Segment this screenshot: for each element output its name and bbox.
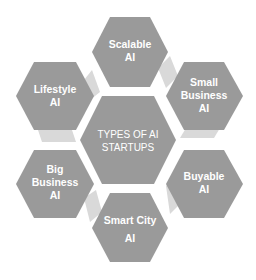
center-title-line-2: STARTUPS xyxy=(102,142,155,153)
hexagon-small-business-label-3: AI xyxy=(199,102,210,114)
hexagon-lifestyle-label-2: AI xyxy=(50,96,61,108)
hexagon-scalable-label-2: AI xyxy=(125,51,136,63)
hexagon-small-business: Small Business AI xyxy=(166,62,243,130)
hexagon-small-business-label-1: Small xyxy=(190,76,218,88)
hexagon-smart-city: Smart City AI xyxy=(92,193,168,262)
hexagon-smart-city-label-1: Smart City xyxy=(104,214,157,226)
hexagon-center: TYPES OF AI STARTUPS xyxy=(80,96,176,184)
types-of-ai-startups-diagram: Scalable AI Small Business AI Buyable AI… xyxy=(0,0,256,280)
hexagon-scalable-label-1: Scalable xyxy=(109,38,152,50)
connector-big-business-lifestyle xyxy=(38,130,76,142)
center-title-line-1: TYPES OF AI xyxy=(97,129,158,140)
hexagon-big-business-label-3: AI xyxy=(50,189,61,201)
hexagon-buyable-label-1: Buyable xyxy=(184,170,225,182)
hexagon-buyable: Buyable AI xyxy=(166,150,243,218)
hexagon-scalable: Scalable AI xyxy=(92,17,168,87)
hexagon-smart-city-label-2: AI xyxy=(125,232,136,244)
hexagon-big-business-label-2: Business xyxy=(32,176,79,188)
hexagon-lifestyle-label-1: Lifestyle xyxy=(34,83,77,95)
hexagon-lifestyle: Lifestyle AI xyxy=(16,62,94,130)
hexagon-buyable-label-2: AI xyxy=(199,183,210,195)
hexagon-big-business-label-1: Big xyxy=(47,163,64,175)
hexagon-big-business: Big Business AI xyxy=(16,150,94,218)
hexagon-small-business-label-2: Business xyxy=(181,89,228,101)
